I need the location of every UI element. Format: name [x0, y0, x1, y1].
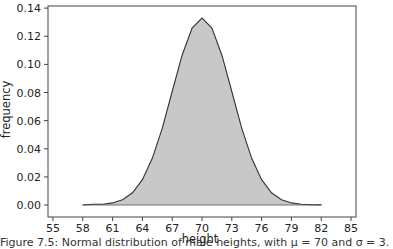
- x-tick-label: 79: [284, 222, 298, 235]
- x-tick-label: 85: [344, 222, 358, 235]
- y-tick-label: 0.06: [17, 115, 42, 128]
- y-tick-label: 0.08: [17, 87, 42, 100]
- x-tick-label: 61: [106, 222, 120, 235]
- x-tick-label: 55: [46, 222, 60, 235]
- distribution-fill: [83, 18, 321, 205]
- y-tick-label: 0.14: [17, 2, 42, 15]
- x-tick-label: 58: [76, 222, 90, 235]
- y-tick-label: 0.02: [17, 171, 42, 184]
- x-tick-label: 64: [135, 222, 149, 235]
- y-tick-label: 0.12: [17, 30, 42, 43]
- y-tick-label: 0.04: [17, 143, 42, 156]
- x-tick-label: 67: [165, 222, 179, 235]
- y-tick-label: 0.00: [17, 199, 42, 212]
- figure-caption: Figure 7.5: Normal distribution of male …: [0, 236, 393, 249]
- y-tick-label: 0.10: [17, 58, 42, 71]
- x-tick-label: 76: [255, 222, 269, 235]
- x-tick-label: 82: [314, 222, 328, 235]
- y-axis-label: frequency: [0, 80, 13, 138]
- x-tick-label: 73: [225, 222, 239, 235]
- plot-area: [83, 18, 321, 205]
